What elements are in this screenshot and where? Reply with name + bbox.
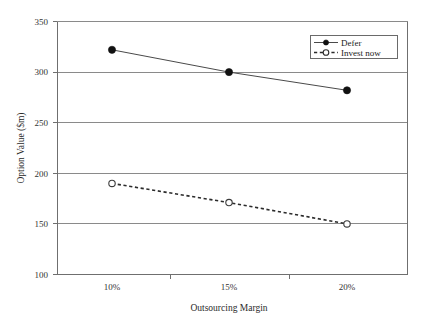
- chart-legend[interactable]: Defer Invest now: [311, 36, 398, 59]
- y-tick-label-200: 200: [35, 169, 49, 179]
- y-tick-label-150: 150: [35, 219, 49, 229]
- legend-marker-defer: [323, 40, 328, 45]
- chart-container: 350 300 250 200 150 100 10% 15% 20% Outs…: [0, 0, 425, 321]
- invest-now-point-15pct: [226, 199, 232, 205]
- y-tick-label-300: 300: [35, 67, 49, 77]
- legend-label-invest-now: Invest now: [341, 48, 381, 58]
- defer-point-10pct: [108, 46, 115, 53]
- legend-marker-invest-now: [323, 50, 329, 56]
- invest-now-point-10pct: [109, 180, 115, 186]
- legend-label-defer: Defer: [341, 38, 361, 48]
- x-axis-title: Outsourcing Margin: [190, 303, 267, 313]
- option-value-line-chart: 350 300 250 200 150 100 10% 15% 20% Outs…: [0, 0, 425, 321]
- x-tick-label-15pct: 15%: [221, 282, 238, 292]
- invest-now-point-20pct: [344, 221, 350, 227]
- y-axis-title: Option Value ($m): [16, 112, 27, 183]
- y-tick-label-100: 100: [35, 270, 49, 280]
- defer-point-15pct: [225, 69, 232, 76]
- x-tick-label-10pct: 10%: [104, 282, 121, 292]
- x-tick-label-20pct: 20%: [339, 282, 356, 292]
- y-tick-label-250: 250: [35, 118, 49, 128]
- defer-point-20pct: [343, 87, 350, 94]
- y-tick-label-350: 350: [35, 17, 49, 27]
